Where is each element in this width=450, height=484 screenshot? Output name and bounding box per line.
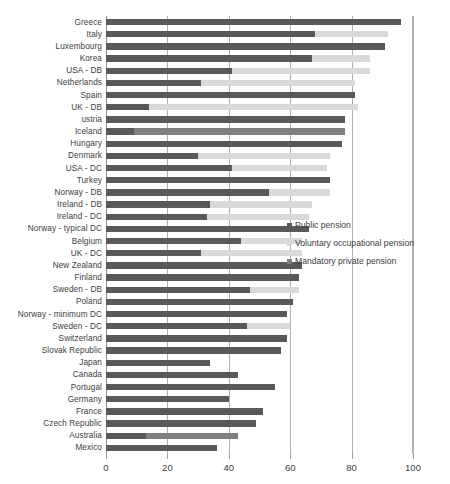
y-axis-label-norway-typical-dc: Norway - typical DC — [28, 224, 102, 233]
y-axis-label-usa-db: USA - DB — [66, 66, 102, 75]
legend-item-mandatory[interactable]: Mandatory private pension — [287, 252, 447, 270]
bar-row — [106, 201, 413, 207]
x-tick-0 — [106, 454, 107, 459]
bar-segment-voluntary — [315, 31, 389, 37]
bar-row — [106, 396, 413, 402]
y-axis-label-france: France — [76, 407, 102, 416]
y-axis-label-norway-minimum-dc: Norway - minimum DC — [18, 310, 102, 319]
bar-row — [106, 128, 413, 134]
chart-legend: Public pensionVoluntary occupational pen… — [287, 216, 447, 270]
bar-row — [106, 189, 413, 195]
legend-item-voluntary[interactable]: Voluntary occupational pension — [287, 234, 447, 252]
y-axis-label-hungary: Hungary — [70, 139, 102, 148]
bar-row — [106, 323, 413, 329]
y-axis-label-turkey: Turkey — [77, 176, 102, 185]
x-tick-label-40: 40 — [224, 462, 235, 473]
bar-row — [106, 408, 413, 414]
bar-segment-public — [106, 189, 269, 195]
y-axis-label-poland: Poland — [76, 297, 102, 306]
bar-segment-public — [106, 153, 198, 159]
bar-row — [106, 335, 413, 341]
x-tick-100 — [413, 454, 414, 459]
legend-label: Public pension — [295, 220, 351, 230]
bar-row — [106, 274, 413, 280]
bar-segment-public — [106, 445, 217, 451]
bar-segment-public — [106, 274, 299, 280]
y-axis-label-japan: Japan — [79, 358, 102, 367]
legend-swatch-public-icon — [287, 223, 292, 228]
x-tick-20 — [167, 454, 168, 459]
bar-segment-voluntary — [269, 189, 330, 195]
bar-row — [106, 68, 413, 74]
legend-swatch-mandatory-icon — [287, 259, 292, 264]
bar-row — [106, 177, 413, 183]
bar-segment-public — [106, 250, 201, 256]
bar-segment-public — [106, 165, 232, 171]
bar-segment-voluntary — [149, 104, 358, 110]
bar-segment-public — [106, 92, 355, 98]
bar-row — [106, 287, 413, 293]
y-axis-label-usa-dc: USA - DC — [66, 164, 102, 173]
x-axis: 020406080100 — [106, 454, 413, 480]
bar-segment-public — [106, 360, 210, 366]
bar-segment-public — [106, 226, 309, 232]
y-axis-label-norway-db: Norway - DB — [54, 188, 102, 197]
bar-segment-voluntary — [312, 55, 370, 61]
bar-segment-public — [106, 408, 263, 414]
bar-row — [106, 153, 413, 159]
pension-stacked-bar-chart: GreeceItalyLuxembourgKoreaUSA - DBNether… — [0, 0, 450, 484]
bar-row — [106, 165, 413, 171]
bar-segment-public — [106, 214, 207, 220]
y-axis-label-germany: Germany — [68, 395, 102, 404]
bar-row — [106, 420, 413, 426]
y-axis-label-slovak-republic: Slovak Republic — [42, 346, 102, 355]
bar-row — [106, 116, 413, 122]
y-axis-label-spain: Spain — [81, 91, 102, 100]
y-axis-label-finland: Finland — [74, 273, 102, 282]
y-axis-label-greece: Greece — [75, 18, 102, 27]
y-axis-label-luxembourg: Luxembourg — [55, 42, 102, 51]
bar-row — [106, 92, 413, 98]
y-axis-label-belgium: Belgium — [72, 237, 102, 246]
bar-segment-voluntary — [250, 287, 299, 293]
bar-segment-voluntary — [201, 80, 355, 86]
legend-label: Mandatory private pension — [295, 256, 396, 266]
y-axis-label-denmark: Denmark — [68, 151, 102, 160]
x-tick-label-0: 0 — [103, 462, 108, 473]
x-axis-line — [106, 454, 413, 455]
y-axis-label-switzerland: Switzerland — [59, 334, 102, 343]
legend-item-public[interactable]: Public pension — [287, 216, 447, 234]
x-tick-label-20: 20 — [162, 462, 173, 473]
bar-segment-public — [106, 238, 241, 244]
bar-segment-public — [106, 201, 210, 207]
y-axis-label-netherlands: Netherlands — [57, 78, 102, 87]
bar-row — [106, 372, 413, 378]
bar-segment-public — [106, 384, 275, 390]
y-axis-label-canada: Canada — [73, 370, 102, 379]
bar-row — [106, 43, 413, 49]
bar-segment-mandatory — [134, 128, 346, 134]
bar-segment-voluntary — [247, 323, 290, 329]
legend-swatch-voluntary-icon — [287, 241, 292, 246]
bar-row — [106, 445, 413, 451]
y-axis-label-australia: Australia — [69, 431, 102, 440]
bar-segment-public — [106, 80, 201, 86]
y-axis-label-ireland-db: Ireland - DB — [57, 200, 102, 209]
bar-segment-public — [106, 128, 134, 134]
bar-row — [106, 311, 413, 317]
x-tick-label-100: 100 — [405, 462, 421, 473]
bar-segment-voluntary — [232, 165, 327, 171]
bar-segment-public — [106, 116, 345, 122]
bar-segment-public — [106, 177, 330, 183]
bar-row — [106, 433, 413, 439]
y-axis-label-korea: Korea — [80, 54, 102, 63]
y-axis-category-labels: GreeceItalyLuxembourgKoreaUSA - DBNether… — [0, 16, 102, 454]
y-axis-label-new-zealand: New Zealand — [53, 261, 102, 270]
y-axis-label-uk-dc: UK - DC — [71, 249, 102, 258]
bar-segment-public — [106, 287, 250, 293]
bar-segment-public — [106, 43, 385, 49]
bar-segment-mandatory — [146, 433, 238, 439]
x-tick-60 — [290, 454, 291, 459]
bar-segment-public — [106, 347, 281, 353]
bar-segment-public — [106, 396, 229, 402]
